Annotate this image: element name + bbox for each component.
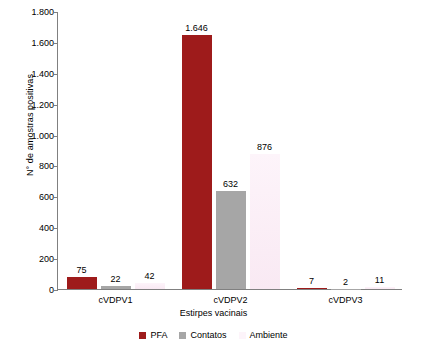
bar-cvdpv2-contatos: [216, 191, 246, 289]
bar-cvdpv3-ambiente: [365, 287, 395, 289]
bar-value-label: 11: [375, 275, 384, 285]
legend-label: PFA: [150, 330, 167, 340]
bar-cvdpv3-pfa: [297, 288, 327, 289]
x-axis-category-label: cVDPV2: [213, 295, 247, 305]
bar-value-label: 75: [76, 265, 86, 275]
legend-item-pfa: PFA: [139, 330, 167, 340]
x-axis-title: Estirpes vacinais: [0, 308, 427, 318]
bar-value-label: 22: [110, 274, 120, 284]
bar-value-label: 2: [343, 277, 348, 287]
legend-item-ambiente: Ambiente: [239, 330, 288, 340]
y-axis-tick-label: 1.800: [31, 8, 54, 17]
bar-cvdpv3-contatos: [331, 289, 361, 290]
y-axis-tick-mark: [54, 136, 58, 137]
y-axis-tick-mark: [54, 197, 58, 198]
legend-item-contatos: Contatos: [179, 330, 226, 340]
y-axis-tick-mark: [54, 43, 58, 44]
x-axis-category-label: cVDPV3: [328, 295, 362, 305]
legend-label: Ambiente: [250, 330, 288, 340]
y-axis-tick-mark: [54, 228, 58, 229]
y-axis-tick-label: 1.000: [31, 131, 54, 140]
y-axis-tick-label: 1.400: [31, 69, 54, 78]
bar-cvdpv1-pfa: [67, 277, 97, 289]
y-axis-tick-mark: [54, 166, 58, 167]
legend-label: Contatos: [190, 330, 226, 340]
y-axis-tick-label: 1.600: [31, 38, 54, 47]
y-axis-tick-label: 200: [39, 255, 54, 264]
x-axis-category-label: cVDPV1: [98, 295, 132, 305]
bar-cvdpv2-pfa: [182, 35, 212, 289]
y-axis-tick-mark: [54, 290, 58, 291]
plot-area: 02004006008001.0001.2001.4001.6001.800 7…: [57, 12, 402, 290]
y-axis-tick-mark: [54, 259, 58, 260]
y-axis-tick-label: 600: [39, 193, 54, 202]
y-axis-tick-mark: [54, 12, 58, 13]
y-axis-title: N° de amostras positivas: [25, 25, 35, 225]
bar-value-label: 7: [309, 276, 314, 286]
bar-value-label: 876: [257, 142, 272, 152]
bar-value-label: 42: [144, 271, 154, 281]
legend-swatch: [239, 332, 246, 339]
bar-cvdpv1-contatos: [101, 286, 131, 289]
y-axis-tick-mark: [54, 74, 58, 75]
y-axis-tick-mark: [54, 105, 58, 106]
bar-value-label: 1.646: [185, 23, 208, 33]
y-axis-tick-label: 400: [39, 224, 54, 233]
y-axis-tick-label: 1.200: [31, 100, 54, 109]
legend-swatch: [179, 332, 186, 339]
y-axis-tick-label: 800: [39, 162, 54, 171]
legend-swatch: [139, 332, 146, 339]
bar-cvdpv2-ambiente: [250, 154, 280, 289]
chart-legend: PFAContatosAmbiente: [0, 330, 427, 340]
bar-cvdpv1-ambiente: [135, 283, 165, 289]
bar-value-label: 632: [223, 179, 238, 189]
chart-container: N° de amostras positivas 02004006008001.…: [0, 0, 427, 355]
